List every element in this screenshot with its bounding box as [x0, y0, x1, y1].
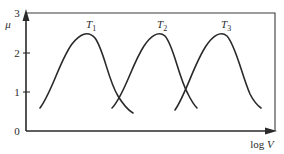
- curve-t3: [175, 34, 261, 110]
- y-tick-label-1: 1: [14, 86, 20, 98]
- x-axis-title-var: V: [267, 138, 275, 150]
- plot-frame: [26, 13, 275, 131]
- series-label-t3-sub: 3: [227, 24, 231, 33]
- y-axis-title: μ: [4, 18, 11, 30]
- x-axis-title-prefix: log: [250, 138, 267, 150]
- curve-t2: [112, 34, 197, 108]
- series-label-t3: T3: [221, 18, 231, 33]
- chart: 3 2 1 0 μ log V T1 T2 T3: [0, 0, 284, 154]
- y-tick-label-3: 3: [14, 7, 20, 19]
- series-label-t2: T2: [157, 18, 167, 33]
- series-label-t1-sub: 1: [92, 24, 96, 33]
- x-axis-title: log V: [250, 138, 275, 150]
- series-label-t1: T1: [86, 18, 96, 33]
- series-label-t2-sub: 2: [163, 24, 167, 33]
- curve-t1: [40, 34, 133, 113]
- y-axis-arrow-icon: [23, 9, 30, 21]
- y-tick-label-2: 2: [14, 47, 20, 59]
- y-tick-label-0: 0: [14, 125, 20, 137]
